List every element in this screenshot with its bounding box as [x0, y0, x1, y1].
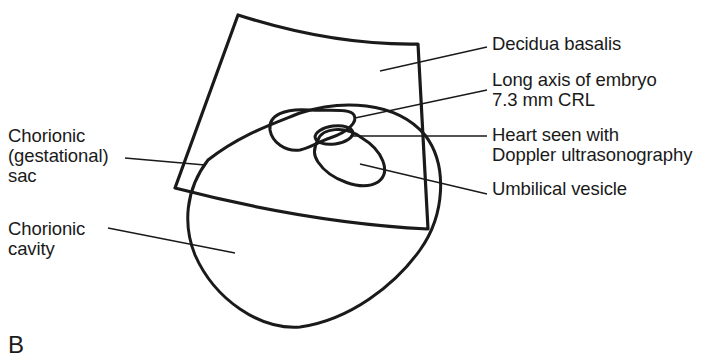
- label-long-axis-line1: Long axis of embryo: [492, 70, 657, 90]
- label-long-axis-line2: 7.3 mm CRL: [492, 90, 595, 110]
- label-chorionic-sac-line1: Chorionic: [8, 126, 85, 146]
- label-chorionic-sac-line3: sac: [8, 166, 37, 186]
- leader-chorionic-sac: [125, 158, 205, 165]
- label-heart-line2: Doppler ultrasonography: [492, 145, 692, 165]
- label-decidua-basalis: Decidua basalis: [492, 34, 621, 54]
- label-heart-line1: Heart seen with: [492, 125, 619, 145]
- label-chorionic-cavity-line2: cavity: [8, 239, 55, 259]
- ultrasound-sector: [175, 15, 428, 229]
- panel-label: B: [8, 331, 24, 359]
- leader-chorionic-cavity: [108, 228, 235, 253]
- label-umbilical-vesicle: Umbilical vesicle: [492, 179, 627, 199]
- label-chorionic-sac-line2: (gestational): [8, 146, 109, 166]
- leader-decidua-basalis: [380, 47, 487, 71]
- label-chorionic-cavity-line1: Chorionic: [8, 219, 85, 239]
